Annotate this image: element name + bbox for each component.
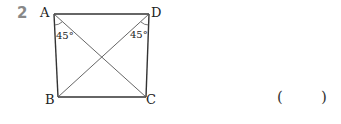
side-dc: [146, 14, 149, 97]
diagonal-ac: [54, 14, 146, 97]
vertex-label-c: C: [146, 92, 156, 107]
angle-label-a: 45°: [56, 30, 74, 41]
vertex-label-d: D: [151, 5, 161, 20]
angle-arc-d: [141, 22, 149, 25]
quadrilateral-figure: A D B C 45° 45°: [0, 0, 341, 124]
vertex-label-a: A: [39, 5, 50, 20]
answer-paren-close: ): [321, 88, 327, 106]
angle-label-d: 45°: [130, 29, 148, 40]
side-ab: [54, 14, 58, 97]
vertex-label-b: B: [45, 92, 55, 107]
angle-arc-a: [55, 22, 62, 25]
diagonal-db: [58, 14, 149, 97]
answer-paren-open: (: [277, 88, 283, 106]
